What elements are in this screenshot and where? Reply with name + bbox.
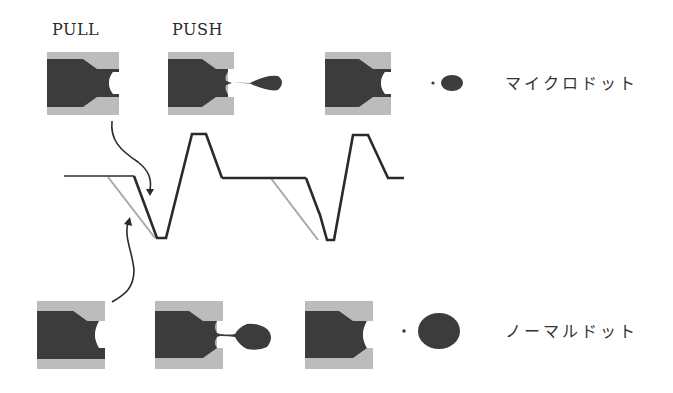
ink-ejection-diagram — [0, 0, 673, 393]
micro-dot-icon — [441, 75, 463, 91]
arrow-waveform-to-normal — [112, 217, 134, 302]
waveform-micro-cycle-1 — [134, 134, 222, 238]
waveform-micro-cycle-2 — [306, 135, 404, 240]
waveform-normal-pull-2 — [270, 177, 318, 240]
nozzle-after-top — [325, 52, 391, 115]
satellite-dot-bottom — [402, 329, 406, 333]
nozzle-after-bottom — [305, 301, 373, 369]
satellite-dot-top — [431, 81, 434, 84]
normal-dot-icon — [418, 313, 460, 349]
nozzle-pull-top — [47, 52, 119, 115]
nozzle-push-top — [168, 52, 282, 115]
drive-waveform — [64, 134, 404, 240]
waveform-normal-pull-1 — [108, 177, 155, 238]
nozzle-push-bottom — [155, 301, 271, 369]
nozzle-pull-bottom — [37, 301, 105, 369]
arrow-pull-to-waveform — [112, 121, 154, 196]
